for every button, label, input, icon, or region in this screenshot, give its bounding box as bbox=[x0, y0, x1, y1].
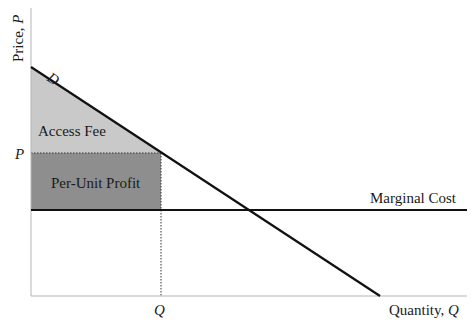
economics-diagram: D Access Fee Per-Unit Profit Marginal Co… bbox=[0, 0, 476, 328]
quantity-tick-label: Q bbox=[154, 302, 165, 318]
marginal-cost-label: Marginal Cost bbox=[370, 190, 457, 206]
price-tick-label: P bbox=[14, 146, 24, 162]
y-axis-label: Price, P bbox=[10, 15, 26, 63]
access-fee-label: Access Fee bbox=[38, 123, 106, 139]
x-axis-label: Quantity, Q bbox=[389, 302, 459, 318]
per-unit-profit-label: Per-Unit Profit bbox=[51, 175, 141, 191]
